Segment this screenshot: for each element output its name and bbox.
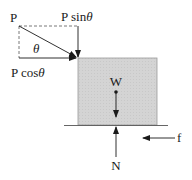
label-weight: W bbox=[110, 74, 123, 89]
label-p: P bbox=[10, 10, 17, 25]
label-theta: θ bbox=[33, 41, 40, 56]
label-normal: N bbox=[111, 158, 121, 173]
label-p-cos-theta: P cosθ bbox=[11, 65, 45, 80]
label-friction: f bbox=[177, 130, 182, 145]
p-force-arrow bbox=[19, 26, 76, 57]
free-body-diagram: P P sinθ θ P cosθ W N f bbox=[0, 0, 192, 180]
label-p-sin-theta: P sinθ bbox=[61, 9, 93, 24]
